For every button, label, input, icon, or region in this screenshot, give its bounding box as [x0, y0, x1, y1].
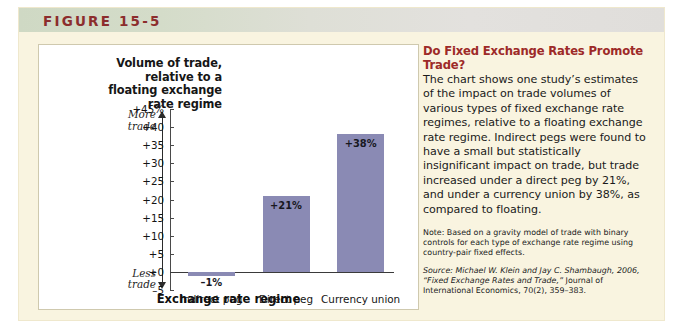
y-axis-tick-label: +0: [149, 266, 164, 278]
y-axis-tick: [170, 145, 174, 146]
x-axis-title: Exchange rate regime: [39, 292, 418, 306]
y-axis-tick: [170, 181, 174, 182]
y-axis-tick-label: +25: [142, 175, 164, 187]
y-axis-tick-label: +10: [142, 230, 164, 242]
figure-number-label: FIGURE 15-5: [43, 13, 162, 29]
y-axis-tick: [170, 127, 174, 128]
y-axis-tick: [170, 163, 174, 164]
y-axis-tick: [170, 218, 174, 219]
y-axis-tick: [170, 254, 174, 255]
y-axis-tick: [170, 290, 174, 291]
y-axis-title-line-1: Volume of trade,: [52, 57, 222, 71]
y-axis-tick-label: +30: [142, 157, 164, 169]
source-italic-part: Source: Michael W. Klein and Jay C. Sham…: [423, 266, 639, 285]
figure-header-band: FIGURE 15-5: [19, 8, 664, 32]
bar-value-label: –1%: [188, 277, 235, 288]
y-axis-title-line-3: floating exchange: [52, 84, 222, 98]
y-axis-tick-label: +15: [142, 212, 164, 224]
sidebar-text-column: Do Fixed Exchange Rates Promote Trade? T…: [423, 44, 649, 308]
y-axis-tick-label: +20: [142, 194, 164, 206]
bar-indirect-peg: [188, 272, 235, 276]
y-axis-title-line-2: relative to a: [52, 71, 222, 85]
chart-panel: Volume of trade, relative to a floating …: [38, 44, 419, 310]
less-trade-line-2: trade: [112, 279, 156, 291]
sidebar-source-text: Source: Michael W. Klein and Jay C. Sham…: [423, 266, 649, 295]
y-axis-tick-label: +40: [142, 121, 164, 133]
y-axis-tick-label: +5: [149, 248, 164, 260]
bar-currency-union: [337, 134, 384, 272]
figure-body: Volume of trade, relative to a floating …: [19, 32, 664, 320]
figure-container: FIGURE 15-5 Volume of trade, relative to…: [19, 8, 664, 320]
sidebar-headline: Do Fixed Exchange Rates Promote Trade?: [423, 44, 649, 72]
y-axis-tick-label: +35: [142, 139, 164, 151]
bar-value-label: +38%: [337, 138, 384, 149]
y-axis-tick: [170, 200, 174, 201]
sidebar-body-text: The chart shows one study’s estimates of…: [423, 73, 649, 217]
y-axis-tick-label: +45%: [132, 103, 164, 115]
bar-value-label: +21%: [263, 200, 310, 211]
y-axis-tick: [170, 109, 174, 110]
y-axis-tick: [170, 236, 174, 237]
sidebar-note-text: Note: Based on a gravity model of trade …: [423, 228, 649, 257]
plot-area: +45%+40+35+30+25+20+15+10+5+0–5–1%Indire…: [170, 109, 394, 290]
